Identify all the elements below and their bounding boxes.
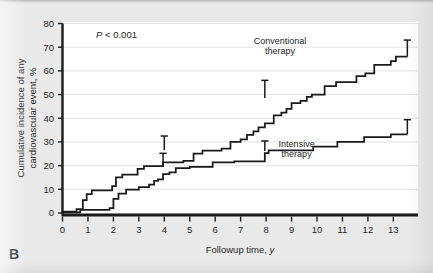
y-tick-label-50: 50 bbox=[43, 89, 54, 100]
x-tick-label-7: 7 bbox=[238, 224, 243, 235]
x-tick-label-1: 1 bbox=[85, 224, 90, 235]
y-tick-label-20: 20 bbox=[43, 160, 54, 171]
series-label-conventional-line1: Conventional bbox=[254, 36, 307, 46]
x-tick-label-8: 8 bbox=[263, 224, 268, 235]
series-label-intensive-line2: therapy bbox=[282, 149, 313, 159]
x-tick-label-2: 2 bbox=[111, 224, 116, 235]
y-axis-title-line1: Cumulative incidence of any bbox=[15, 58, 26, 177]
x-axis-title: Followup time, y bbox=[206, 244, 276, 255]
p-value-text: < 0.001 bbox=[102, 29, 137, 40]
x-tick-label-6: 6 bbox=[213, 224, 218, 235]
y-axis-title-line2: cardiovascular event, % bbox=[27, 67, 38, 168]
x-tick-label-13: 13 bbox=[388, 224, 399, 235]
y-tick-label-30: 30 bbox=[43, 136, 54, 147]
y-tick-label-10: 10 bbox=[43, 184, 54, 195]
series-label-intensive-line1: Intensive bbox=[279, 139, 315, 149]
y-tick-label-0: 0 bbox=[49, 207, 54, 218]
x-tick-label-10: 10 bbox=[312, 224, 323, 235]
figure-panel-b: 01020304050607080012345678910111213 Conv… bbox=[0, 0, 433, 273]
x-axis-title-unit: y bbox=[269, 244, 276, 255]
x-tick-label-4: 4 bbox=[162, 224, 167, 235]
series-label-conventional-line2: therapy bbox=[265, 46, 296, 56]
cumulative-incidence-chart: 01020304050607080012345678910111213 Conv… bbox=[0, 0, 433, 273]
x-tick-label-12: 12 bbox=[363, 224, 374, 235]
x-axis-title-text: Followup time, bbox=[206, 244, 270, 255]
p-value-annotation: P < 0.001 bbox=[96, 29, 137, 40]
y-tick-label-40: 40 bbox=[43, 113, 54, 124]
x-tick-label-0: 0 bbox=[60, 224, 65, 235]
y-tick-label-80: 80 bbox=[43, 18, 54, 29]
y-tick-label-70: 70 bbox=[43, 42, 54, 53]
x-tick-label-9: 9 bbox=[289, 224, 294, 235]
y-tick-label-60: 60 bbox=[43, 65, 54, 76]
x-tick-label-3: 3 bbox=[136, 224, 141, 235]
x-tick-label-11: 11 bbox=[338, 224, 348, 235]
panel-label: B bbox=[9, 246, 19, 262]
x-tick-label-5: 5 bbox=[187, 224, 192, 235]
